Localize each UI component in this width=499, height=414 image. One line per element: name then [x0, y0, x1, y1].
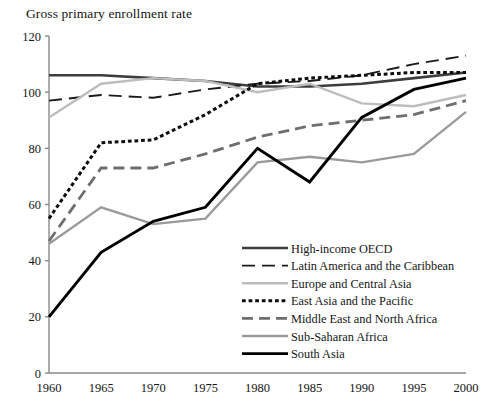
chart-legend: High-income OECDLatin America and the Ca… [242, 242, 454, 362]
x-axis-tick-label: 2000 [454, 381, 479, 395]
y-axis-tick-label: 120 [22, 30, 41, 44]
data-line-series [49, 112, 466, 244]
y-axis-tick-label: 80 [29, 142, 42, 156]
legend-item-label: Europe and Central Asia [291, 277, 412, 291]
y-axis: 020406080100120 [22, 30, 49, 381]
legend-item-label: South Asia [291, 347, 345, 361]
legend-item-label: Sub-Saharan Africa [291, 330, 388, 344]
legend-item-label: Latin America and the Caribbean [291, 259, 454, 273]
legend-item-label: Middle East and North Africa [291, 312, 438, 326]
x-axis-tick-label: 1995 [401, 381, 426, 395]
legend-item-label: East Asia and the Pacific [291, 294, 414, 308]
y-axis-tick-label: 20 [29, 310, 42, 324]
x-axis-tick-label: 1980 [245, 381, 270, 395]
data-line-series [49, 101, 466, 241]
x-axis-tick-label: 1970 [141, 381, 166, 395]
x-axis-tick-label: 1985 [297, 381, 322, 395]
y-axis-tick-label: 100 [22, 86, 41, 100]
x-axis-tick-label: 1990 [349, 381, 374, 395]
x-axis: 196019651970197519801985199019952000 [37, 373, 479, 395]
y-axis-tick-label: 40 [29, 254, 42, 268]
line-chart-plot: 020406080100120 196019651970197519801985… [0, 0, 499, 414]
legend-item-label: High-income OECD [291, 242, 393, 256]
x-axis-tick-label: 1975 [193, 381, 218, 395]
y-axis-tick-label: 60 [29, 198, 42, 212]
chart-figure: Gross primary enrollment rate 0204060801… [0, 0, 499, 414]
y-axis-tick-label: 0 [35, 367, 41, 381]
x-axis-tick-label: 1965 [89, 381, 114, 395]
x-axis-tick-label: 1960 [37, 381, 62, 395]
